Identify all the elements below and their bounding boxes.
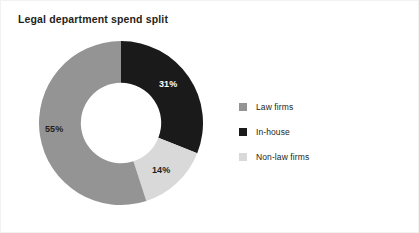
legend-item-label: In-house (256, 127, 290, 137)
slice-label-non-law-firms: 14% (152, 165, 170, 175)
donut-slice[interactable] (121, 41, 203, 153)
donut-svg (39, 41, 203, 205)
donut-chart: 31% 14% 55% (39, 41, 203, 205)
page-title: Legal department spend split (18, 13, 168, 25)
slice-label-law-firms: 55% (45, 124, 63, 134)
legend-swatch-icon (239, 103, 247, 111)
legend-item-law-firms[interactable]: Law firms (239, 101, 369, 113)
chart-figure: Legal department spend split 31% 14% 55%… (0, 0, 419, 233)
legend-swatch-icon (239, 128, 247, 136)
chart-legend: Law firms In-house Non-law firms (239, 101, 369, 163)
slice-label-in-house: 31% (159, 79, 177, 89)
legend-item-non-law-firms[interactable]: Non-law firms (239, 151, 369, 163)
legend-item-label: Non-law firms (256, 152, 309, 162)
legend-item-label: Law firms (256, 102, 293, 112)
legend-item-in-house[interactable]: In-house (239, 126, 369, 138)
donut-slices (39, 41, 203, 205)
legend-swatch-icon (239, 153, 247, 161)
